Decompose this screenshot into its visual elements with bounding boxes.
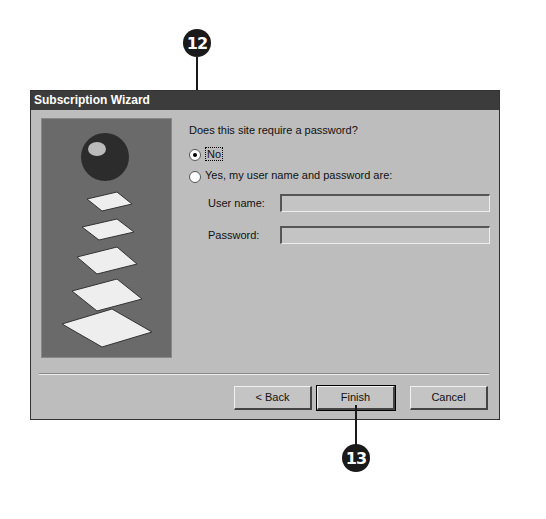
password-input[interactable] (280, 226, 490, 244)
password-question: Does this site require a password? (189, 124, 358, 136)
subscription-wizard-dialog: Subscription Wizard Does this site requi… (30, 90, 500, 420)
radio-yes[interactable] (189, 171, 201, 183)
wizard-illustration (41, 118, 172, 358)
dialog-title: Subscription Wizard (31, 91, 499, 110)
username-input[interactable] (280, 194, 490, 212)
radio-yes-label[interactable]: Yes, my user name and password are: (205, 169, 392, 181)
callout-12: 12 (183, 29, 211, 57)
username-label: User name: (208, 197, 265, 209)
password-label: Password: (208, 229, 259, 241)
divider (39, 373, 489, 375)
radio-no-label[interactable]: No (205, 147, 223, 161)
callout-13: 13 (342, 444, 370, 472)
cancel-button[interactable]: Cancel (410, 386, 488, 410)
radio-no[interactable] (189, 149, 201, 161)
back-button[interactable]: < Back (234, 386, 312, 410)
callout-13-pointer (355, 405, 357, 445)
